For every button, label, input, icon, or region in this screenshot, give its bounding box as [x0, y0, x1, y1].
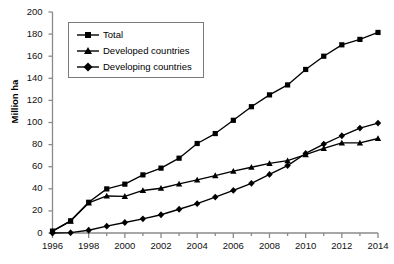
y-tick-label: 40	[13, 182, 43, 193]
y-tick-label: 120	[13, 94, 43, 105]
y-tick-label: 200	[13, 6, 43, 17]
y-tick-label: 80	[13, 138, 43, 149]
x-tick-label: 2012	[322, 240, 362, 251]
y-tick-label: 100	[13, 116, 43, 127]
y-tick-label: 180	[13, 28, 43, 39]
x-tick-label: 2006	[213, 240, 253, 251]
x-tick-label: 2010	[286, 240, 326, 251]
x-tick-label: 1996	[33, 240, 73, 251]
y-tick-label: 140	[13, 72, 43, 83]
x-tick-label: 1998	[69, 240, 109, 251]
x-tick-label: 2004	[177, 240, 217, 251]
legend-label-developed: Developed countries	[103, 44, 190, 58]
y-tick-label: 160	[13, 50, 43, 61]
x-tick-label: 2000	[105, 240, 145, 251]
legend-item-developing: Developing countries	[75, 59, 197, 75]
legend-item-total: Total	[75, 27, 197, 43]
legend-item-developed: Developed countries	[75, 43, 197, 59]
y-tick-label: 20	[13, 204, 43, 215]
triangle-marker-icon	[75, 44, 101, 58]
x-tick-label: 2014	[358, 240, 394, 251]
chart-container: Million ha 020406080100120140160180200 1…	[0, 0, 394, 264]
x-tick-label: 2008	[250, 240, 290, 251]
y-tick-label: 0	[13, 227, 43, 238]
y-tick-label: 60	[13, 160, 43, 171]
chart-legend: Total Developed countries Developing cou…	[68, 22, 204, 78]
x-tick-label: 2002	[141, 240, 181, 251]
square-marker-icon	[75, 28, 101, 42]
diamond-marker-icon	[75, 60, 101, 74]
legend-label-developing: Developing countries	[103, 60, 192, 74]
legend-label-total: Total	[103, 28, 123, 42]
